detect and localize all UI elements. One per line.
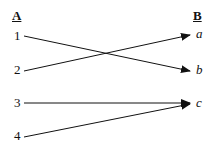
arrow-4-to-c [24, 104, 190, 137]
connection-arrows [0, 0, 214, 152]
